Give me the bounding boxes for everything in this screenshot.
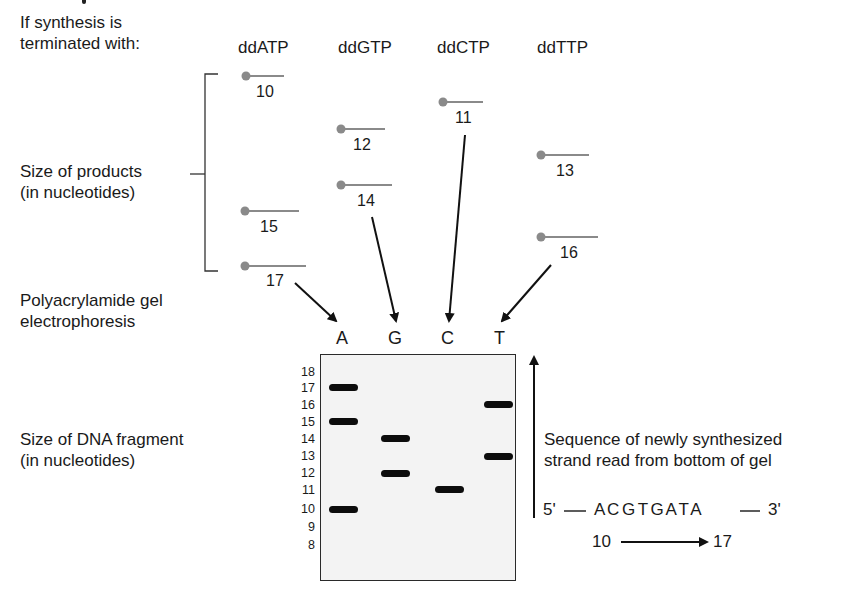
five-prime-label: 5': [543, 500, 556, 520]
tick-15: 15: [293, 415, 315, 429]
band-a-17: [329, 384, 358, 391]
lane-label-a: A: [336, 328, 348, 348]
product-label-t16: 16: [560, 244, 578, 262]
band-a-15: [329, 418, 358, 425]
product-fragment-a17: [241, 262, 307, 271]
three-prime-label: 3': [768, 500, 781, 520]
band-a-10: [329, 506, 358, 513]
product-fragment-t16: [537, 233, 599, 242]
product-label-a17: 17: [266, 272, 284, 290]
sequence-caption-line1: Sequence of newly synthesized: [544, 429, 782, 450]
arrow-g-icon: [372, 217, 396, 321]
tick-14: 14: [293, 432, 315, 446]
lane-label-g: G: [388, 328, 402, 348]
tick-16: 16: [293, 398, 315, 412]
product-label-c11: 11: [455, 109, 472, 127]
product-label-a10: 10: [256, 83, 274, 101]
band-t-13: [484, 453, 513, 460]
tick-12: 12: [293, 466, 315, 480]
product-fragment-g14: [337, 181, 393, 190]
band-t-16: [484, 401, 513, 408]
products-bracket: [190, 74, 218, 271]
arrow-c-icon: [449, 135, 465, 321]
product-fragment-a10: [242, 72, 285, 81]
product-fragment-g12: [337, 125, 386, 134]
product-fragment-c11: [439, 98, 484, 107]
tick-9: 9: [293, 520, 315, 534]
product-fragment-a15: [241, 207, 300, 216]
sequence-bases: A C G T G A T A: [594, 500, 701, 520]
band-g-12: [381, 470, 410, 477]
band-g-14: [381, 435, 410, 442]
product-label-g12: 12: [353, 136, 371, 154]
product-fragments: [241, 72, 599, 271]
tick-11: 11: [293, 483, 315, 497]
range-start-label: 10: [592, 532, 611, 552]
band-c-11: [435, 486, 464, 493]
arrow-t-icon: [502, 265, 551, 321]
gel-panel: [320, 354, 516, 581]
sequence-caption: Sequence of newly synthesized strand rea…: [544, 429, 782, 471]
range-end-label: 17: [713, 532, 732, 552]
product-label-a15: 15: [260, 218, 278, 236]
tick-18: 18: [293, 365, 315, 379]
arrow-a-icon: [295, 283, 336, 321]
tick-8: 8: [293, 538, 315, 552]
tick-10: 10: [293, 502, 315, 516]
lane-label-c: C: [441, 328, 454, 348]
product-fragment-t13: [537, 151, 590, 160]
tick-13: 13: [293, 449, 315, 463]
lane-label-t: T: [494, 328, 505, 348]
product-label-g14: 14: [357, 192, 375, 210]
tick-17: 17: [293, 381, 315, 395]
product-label-t13: 13: [556, 162, 574, 180]
sequence-caption-line2: strand read from bottom of gel: [544, 450, 782, 471]
